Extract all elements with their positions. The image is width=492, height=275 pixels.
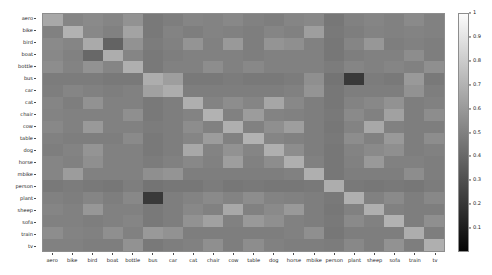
heatmap-cell (243, 97, 263, 109)
x-axis-tick-label: cat (189, 258, 197, 263)
x-axis-tickmark (233, 253, 234, 255)
heatmap-cell (83, 239, 103, 251)
x-axis-tickmark (314, 253, 315, 255)
y-axis-tick-mbike: mbike (0, 168, 39, 180)
heatmap-cell (364, 61, 384, 73)
heatmap-cell (163, 50, 183, 62)
colorbar-tick-1: 1 (469, 10, 476, 15)
x-axis-tick-label: car (169, 258, 177, 263)
colorbar-tick-0.3: 0.3 (469, 178, 481, 183)
heatmap-cell (103, 133, 123, 145)
x-axis-tickmark (132, 253, 133, 255)
heatmap-cell (344, 144, 364, 156)
heatmap-cell (43, 227, 63, 239)
heatmap-cell (404, 109, 424, 121)
colorbar-tickmark (469, 132, 471, 133)
heatmap-cell (384, 61, 404, 73)
heatmap-cell (344, 73, 364, 85)
colorbar-tick-label: 0.3 (473, 178, 481, 183)
heatmap-cell (103, 97, 123, 109)
x-axis-tickmark (435, 253, 436, 255)
heatmap-cell (43, 97, 63, 109)
heatmap-cell (344, 168, 364, 180)
colorbar-tick-0.1: 0.1 (469, 226, 481, 231)
heatmap-cell (143, 121, 163, 133)
heatmap-cell (203, 168, 223, 180)
x-axis-tick-car: car (163, 253, 183, 269)
heatmap-cell (163, 38, 183, 50)
heatmap-cell (344, 239, 364, 251)
heatmap-cell (344, 85, 364, 97)
y-axis-tick-plant: plant (0, 192, 39, 204)
colorbar-tick-label: 0.8 (473, 58, 481, 63)
heatmap-cell (63, 133, 83, 145)
y-axis-tick-label: cow (23, 124, 33, 129)
heatmap-cell (324, 156, 344, 168)
heatmap-cell (163, 156, 183, 168)
y-axis-tick-bike: bike (0, 25, 39, 37)
heatmap-cell (264, 192, 284, 204)
y-axis-tick-sheep: sheep (0, 204, 39, 216)
heatmap-cell (284, 109, 304, 121)
x-axis-tick-label: train (409, 258, 421, 263)
heatmap-cell (103, 109, 123, 121)
heatmap-cell (344, 192, 364, 204)
heatmap-cell (264, 168, 284, 180)
heatmap-cell (203, 156, 223, 168)
y-axis-tick-train: train (0, 228, 39, 240)
heatmap-cell (223, 192, 243, 204)
heatmap-cell (223, 227, 243, 239)
heatmap-cell (424, 180, 444, 192)
y-axis-tick-label: mbike (17, 172, 33, 177)
x-axis-tick-label: dog (269, 258, 279, 263)
heatmap-cell (264, 97, 284, 109)
heatmap-cell (324, 14, 344, 26)
heatmap-cell (183, 97, 203, 109)
x-axis-tick-label: bird (87, 258, 97, 263)
y-axis-tick-label: table (20, 136, 33, 141)
heatmap-cell (364, 133, 384, 145)
heatmap-cell (203, 50, 223, 62)
heatmap-cell (384, 168, 404, 180)
y-axis-tick-label: bottle (18, 64, 33, 69)
heatmap-cell (364, 73, 384, 85)
heatmap-cell (143, 73, 163, 85)
x-axis-tickmark (72, 253, 73, 255)
heatmap-cell (243, 239, 263, 251)
heatmap-cell (63, 227, 83, 239)
heatmap-cell (183, 73, 203, 85)
x-axis-tickmark (273, 253, 274, 255)
y-axis-tick-bus: bus (0, 73, 39, 85)
heatmap-cell (143, 227, 163, 239)
heatmap-cell (83, 85, 103, 97)
colorbar-tick-0.6: 0.6 (469, 106, 481, 111)
heatmap-cell (183, 215, 203, 227)
heatmap-cell (183, 14, 203, 26)
x-axis-tickmark (334, 253, 335, 255)
heatmap-cell (243, 156, 263, 168)
heatmap-cell (43, 85, 63, 97)
heatmap-cell (103, 85, 123, 97)
heatmap-cell (424, 168, 444, 180)
heatmap-cell (364, 227, 384, 239)
heatmap-cell (83, 204, 103, 216)
heatmap-cell (243, 73, 263, 85)
heatmap-cell (404, 192, 424, 204)
heatmap-cell (384, 227, 404, 239)
heatmap-cell (43, 109, 63, 121)
y-axis-tick-label: person (16, 184, 33, 189)
heatmap-cell (43, 73, 63, 85)
heatmap-cell (223, 121, 243, 133)
heatmap-cell (344, 97, 364, 109)
heatmap-cell (143, 144, 163, 156)
heatmap-cell (183, 180, 203, 192)
heatmap-cell (123, 180, 143, 192)
heatmap-cell (223, 180, 243, 192)
x-axis-tick-label: boat (107, 258, 118, 263)
heatmap-cell (364, 192, 384, 204)
heatmap-cell (43, 168, 63, 180)
heatmap-cell (404, 26, 424, 38)
heatmap-cell (284, 133, 304, 145)
heatmap-cell (123, 239, 143, 251)
heatmap-cell (223, 26, 243, 38)
